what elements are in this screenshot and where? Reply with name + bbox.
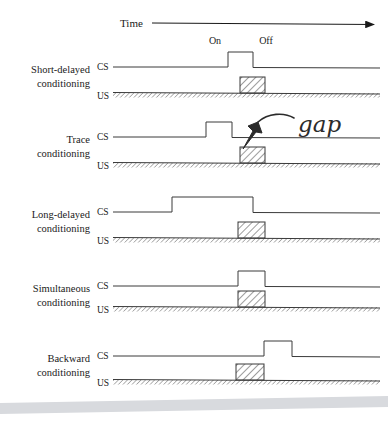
cs-off-marker-label: Off: [259, 35, 273, 46]
row-label-short-delayed-line2: conditioning: [37, 78, 91, 89]
cs-trace-long-delayed: [113, 197, 380, 213]
gap-annotation: gap: [243, 111, 341, 149]
time-axis: Time: [120, 17, 374, 29]
cs-channel-label-simultaneous: CS: [97, 281, 109, 291]
onset-offset-markers: On Off: [209, 35, 274, 46]
gap-annotation-arrow-curve: [258, 114, 294, 122]
cs-trace-simultaneous: [113, 271, 380, 287]
row-label-simultaneous-line2: conditioning: [37, 297, 91, 308]
gap-annotation-text: gap: [298, 111, 341, 137]
row-label-backward-line1: Backward: [47, 353, 90, 364]
time-axis-arrow: [152, 23, 374, 25]
paradigm-row-backward: Backward conditioning CS US: [37, 341, 380, 388]
us-pulse-trace: [240, 147, 265, 163]
us-pulse-long-delayed: [238, 222, 265, 238]
us-pulse-short-delayed: [240, 77, 265, 93]
paradigm-row-long-delayed: Long-delayed conditioning CS US: [32, 197, 380, 246]
footer-band-shape: [0, 396, 388, 414]
us-pulse-simultaneous: [238, 291, 265, 307]
gap-annotation-arrowhead-icon: [243, 122, 262, 149]
conditioning-paradigms-figure: Time On Off Short-delayed conditioning C…: [0, 0, 388, 422]
time-axis-label: Time: [120, 17, 143, 29]
us-channel-label-backward: US: [97, 378, 109, 388]
us-channel-label-trace: US: [97, 161, 109, 171]
us-pulse-backward: [236, 364, 264, 380]
cs-trace-backward: [113, 341, 380, 357]
us-channel-label-simultaneous: US: [97, 305, 109, 315]
cs-trace-short-delayed: [113, 52, 380, 68]
row-label-long-delayed-line1: Long-delayed: [32, 209, 91, 220]
cs-channel-label-short-delayed: CS: [97, 62, 109, 72]
row-label-short-delayed-line1: Short-delayed: [31, 64, 91, 75]
cs-channel-label-backward: CS: [97, 351, 109, 361]
us-channel-label-short-delayed: US: [97, 91, 109, 101]
cs-channel-label-long-delayed: CS: [97, 207, 109, 217]
row-label-long-delayed-line2: conditioning: [37, 223, 91, 234]
row-label-trace-line1: Trace: [66, 134, 90, 145]
paradigm-row-trace: Trace conditioning CS US gap: [37, 111, 380, 171]
cs-channel-label-trace: CS: [97, 132, 109, 142]
us-channel-label-long-delayed: US: [97, 236, 109, 246]
row-label-backward-line2: conditioning: [37, 367, 91, 378]
row-label-simultaneous-line1: Simultaneous: [33, 283, 90, 294]
paradigm-row-short-delayed: Short-delayed conditioning CS US: [31, 52, 380, 101]
cs-on-marker-label: On: [209, 35, 221, 46]
footer-band: [0, 396, 388, 414]
paradigm-row-simultaneous: Simultaneous conditioning CS US: [33, 271, 380, 315]
row-label-trace-line2: conditioning: [37, 148, 91, 159]
